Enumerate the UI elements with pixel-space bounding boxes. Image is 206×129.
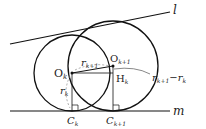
label-rk: rk bbox=[60, 85, 69, 97]
point-ok bbox=[71, 72, 74, 75]
tangent-circles-diagram: l m Ok Ok+1 Hk Ck Ck+1 rk rk+1 rk+1−rk bbox=[0, 0, 206, 129]
label-ok: Ok bbox=[54, 67, 67, 81]
label-ck1: Ck+1 bbox=[106, 115, 126, 127]
label-l: l bbox=[173, 3, 177, 17]
label-rk1: rk+1 bbox=[81, 57, 98, 69]
label-ok1: Ok+1 bbox=[110, 53, 131, 65]
point-ok1 bbox=[112, 65, 115, 68]
label-m: m bbox=[173, 104, 184, 118]
label-ck: Ck bbox=[67, 115, 79, 127]
label-hk: Hk bbox=[116, 73, 129, 85]
